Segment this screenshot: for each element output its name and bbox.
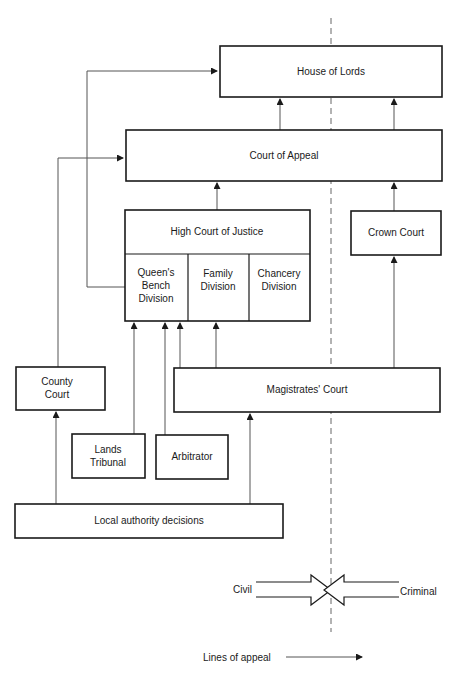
county-line-1: County bbox=[41, 376, 73, 387]
node-county-court: County Court bbox=[16, 367, 105, 410]
node-court-of-appeal: Court of Appeal bbox=[126, 130, 442, 181]
lands-line-2: Tribunal bbox=[90, 457, 126, 468]
magistrates-court-label: Magistrates' Court bbox=[267, 384, 348, 395]
node-magistrates-court: Magistrates' Court bbox=[174, 368, 440, 412]
court-hierarchy-diagram: House of Lords Court of Appeal High Cour… bbox=[0, 0, 460, 681]
node-local-authority: Local authority decisions bbox=[15, 504, 283, 538]
criminal-arrow-icon bbox=[324, 575, 399, 605]
civil-criminal-legend: Civil Criminal bbox=[233, 575, 437, 605]
chancery-line-1: Chancery bbox=[258, 268, 301, 279]
court-of-appeal-label: Court of Appeal bbox=[250, 150, 319, 161]
high-court-label: High Court of Justice bbox=[171, 226, 264, 237]
arbitrator-label: Arbitrator bbox=[171, 451, 213, 462]
family-line-2: Division bbox=[200, 281, 235, 292]
county-line-2: Court bbox=[45, 389, 70, 400]
node-crown-court: Crown Court bbox=[351, 211, 441, 255]
local-authority-label: Local authority decisions bbox=[94, 515, 204, 526]
family-line-1: Family bbox=[203, 268, 232, 279]
chancery-line-2: Division bbox=[261, 281, 296, 292]
house-of-lords-label: House of Lords bbox=[297, 66, 365, 77]
node-arbitrator: Arbitrator bbox=[156, 435, 228, 479]
civil-arrow-icon bbox=[256, 575, 331, 605]
lines-of-appeal-label: Lines of appeal bbox=[203, 652, 271, 663]
civil-label: Civil bbox=[233, 584, 252, 595]
line-county-to-ca bbox=[58, 158, 123, 367]
queens-bench-division: Queen's Bench Division bbox=[138, 267, 175, 304]
qb-line-1: Queen's bbox=[138, 267, 175, 278]
criminal-label: Criminal bbox=[400, 586, 437, 597]
node-high-court: High Court of Justice Queen's Bench Divi… bbox=[125, 210, 310, 321]
node-lands-tribunal: Lands Tribunal bbox=[72, 434, 145, 478]
lines-of-appeal-key: Lines of appeal bbox=[203, 652, 362, 663]
lands-line-1: Lands bbox=[94, 444, 121, 455]
node-house-of-lords: House of Lords bbox=[220, 46, 442, 97]
crown-court-label: Crown Court bbox=[368, 227, 424, 238]
qb-line-2: Bench bbox=[142, 280, 170, 291]
qb-line-3: Division bbox=[138, 293, 173, 304]
